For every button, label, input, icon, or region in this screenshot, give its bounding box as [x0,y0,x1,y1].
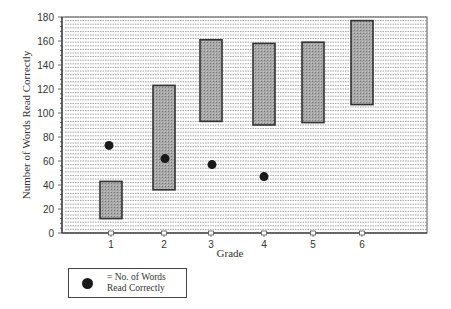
y-tick-label: 20 [43,204,55,215]
data-point [208,160,217,169]
y-tick-label: 40 [43,180,55,191]
y-tick-label: 120 [37,84,54,95]
data-point [260,172,269,181]
range-bar [351,21,373,105]
y-tick-label: 60 [43,156,55,167]
x-tick-label: 2 [161,239,167,250]
range-bar [200,40,222,122]
legend-label: = No. of Words Read Correctly [107,272,187,294]
data-point [161,154,170,163]
y-tick-label: 80 [43,132,55,143]
range-bar [100,181,122,218]
range-bar [302,42,324,122]
x-axis-title: Grade [217,247,244,259]
y-tick-label: 160 [37,36,54,47]
x-tick-label: 4 [261,239,267,250]
y-tick-label: 0 [48,228,54,239]
data-point [105,141,114,150]
y-tick-label: 180 [37,12,54,23]
x-tick-label: 1 [108,239,114,250]
x-tick-label: 5 [310,239,316,250]
chart: 020406080100120140160180123456 Grade Num… [0,0,451,309]
x-tick-label: 3 [208,239,214,250]
y-tick-label: 140 [37,60,54,71]
legend-dot-icon [82,278,93,289]
x-tick-label: 6 [359,239,365,250]
range-bar [253,43,275,125]
range-bar [153,85,175,189]
legend: = No. of Words Read Correctly [68,268,187,298]
y-tick-label: 100 [37,108,54,119]
y-axis-title: Number of Words Read Correctly [20,50,32,199]
